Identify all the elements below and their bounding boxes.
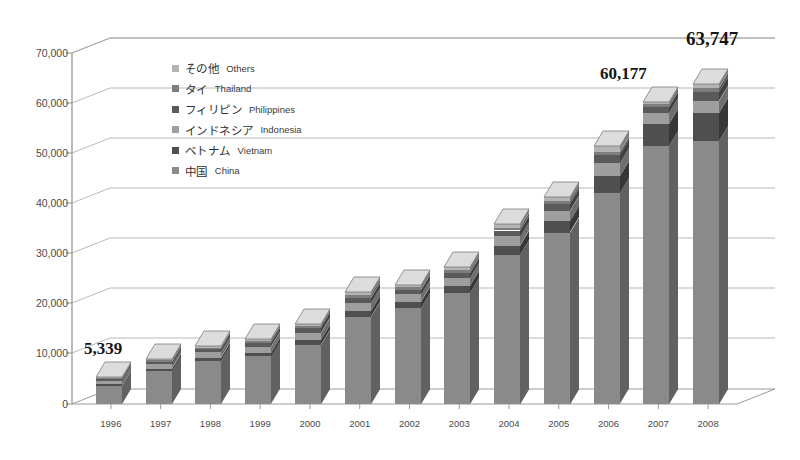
- bar-top-cap: [96, 362, 133, 380]
- segment-side-face: [470, 278, 480, 405]
- bar-segment-2002-4: [395, 287, 421, 289]
- legend-label-en: Thailand: [215, 83, 251, 94]
- bar-segment-2005-1: [544, 221, 570, 232]
- segment-front-face: [444, 286, 470, 293]
- bar-segment-2001-1: [345, 311, 371, 317]
- bar-2007: [643, 0, 669, 460]
- x-tick-label-2007: 2007: [635, 418, 681, 429]
- segment-side-face: [620, 178, 630, 405]
- bar-top-cap: [544, 182, 581, 200]
- bar-segment-1997-2: [146, 364, 172, 369]
- bar-segment-2000-3: [295, 328, 321, 333]
- x-tick-label-2005: 2005: [536, 418, 582, 429]
- bar-segment-2002-0: [395, 308, 421, 404]
- segment-front-face: [295, 340, 321, 345]
- bar-segment-2003-0: [444, 293, 470, 404]
- legend-label-en: Indonesia: [260, 124, 301, 135]
- bar-segment-2001-4: [345, 295, 371, 298]
- legend-swatch-icon: [172, 65, 179, 72]
- bar-segment-2003-4: [444, 270, 470, 273]
- bar-top-cap: [693, 69, 730, 87]
- bar-segment-2000-0: [295, 345, 321, 404]
- segment-front-face: [146, 362, 172, 365]
- bar-segment-1997-0: [146, 371, 172, 404]
- segment-front-face: [594, 163, 620, 176]
- legend: その他 Others タイ Thailand フィリピン Philippines…: [172, 58, 362, 181]
- bar-top-cap: [395, 270, 432, 288]
- segment-front-face: [295, 328, 321, 333]
- segment-front-face: [693, 88, 719, 92]
- bar-top-cap: [245, 324, 282, 342]
- legend-label-en: China: [215, 165, 240, 176]
- bar-segment-2008-0: [693, 141, 719, 404]
- legend-item-others: その他 Others: [172, 58, 362, 79]
- legend-label-jp: インドネシア: [185, 122, 253, 138]
- segment-front-face: [594, 152, 620, 156]
- segment-front-face: [544, 221, 570, 232]
- bar-segment-1996-2: [96, 381, 122, 385]
- segment-front-face: [146, 369, 172, 371]
- legend-item-vietnam: ベトナム Vietnam: [172, 140, 362, 161]
- segment-front-face: [693, 113, 719, 141]
- segment-side-face: [570, 218, 580, 405]
- x-tick-label-2003: 2003: [436, 418, 482, 429]
- segment-front-face: [693, 101, 719, 113]
- bar-2005: [544, 0, 570, 460]
- x-tick-label-2001: 2001: [337, 418, 383, 429]
- x-tick-label-1998: 1998: [187, 418, 233, 429]
- bar-segment-2002-3: [395, 290, 421, 295]
- segment-front-face: [245, 356, 271, 404]
- value-label-1996: 5,339: [84, 339, 122, 359]
- bar-segment-1999-0: [245, 356, 271, 404]
- segment-front-face: [345, 303, 371, 312]
- legend-label-en: Vietnam: [238, 145, 273, 156]
- bar-segment-2006-3: [594, 155, 620, 163]
- bar-segment-2007-2: [643, 113, 669, 124]
- segment-front-face: [395, 294, 421, 302]
- bar-segment-2006-4: [594, 152, 620, 156]
- legend-item-philippines: フィリピン Philippines: [172, 99, 362, 120]
- bar-top-cap: [494, 209, 531, 227]
- segment-side-face: [669, 131, 679, 405]
- segment-front-face: [544, 204, 570, 211]
- bar-segment-2008-2: [693, 101, 719, 113]
- segment-side-face: [520, 240, 530, 405]
- x-tick-label-2006: 2006: [586, 418, 632, 429]
- segment-front-face: [245, 353, 271, 357]
- legend-label-jp: タイ: [185, 81, 208, 97]
- bar-segment-1999-1: [245, 353, 271, 357]
- legend-label-jp: その他: [185, 60, 219, 76]
- bar-segment-1996-0: [96, 386, 122, 404]
- segment-front-face: [444, 270, 470, 273]
- segment-front-face: [195, 349, 221, 352]
- bar-segment-2007-1: [643, 124, 669, 146]
- bar-segment-2004-0: [494, 255, 520, 404]
- x-tick-label-2000: 2000: [287, 418, 333, 429]
- bar-segment-2008-4: [693, 88, 719, 92]
- segment-front-face: [96, 386, 122, 404]
- segment-front-face: [494, 246, 520, 255]
- bar-top-cap: [295, 309, 332, 327]
- x-tick-label-2004: 2004: [486, 418, 532, 429]
- segment-front-face: [494, 231, 520, 237]
- legend-item-thailand: タイ Thailand: [172, 79, 362, 100]
- segment-front-face: [96, 381, 122, 385]
- bar-segment-1996-1: [96, 384, 122, 386]
- x-tick-label-2008: 2008: [685, 418, 731, 429]
- legend-swatch-icon: [172, 167, 179, 174]
- bar-1997: [146, 0, 172, 460]
- legend-label-en: Others: [226, 63, 255, 74]
- bar-segment-2000-1: [295, 340, 321, 345]
- segment-front-face: [295, 333, 321, 341]
- segment-front-face: [345, 295, 371, 298]
- bar-segment-2006-2: [594, 163, 620, 176]
- segment-front-face: [544, 233, 570, 404]
- legend-label-jp: 中国: [185, 163, 208, 179]
- bar-segment-1999-3: [245, 343, 271, 347]
- bar-1996: [96, 0, 122, 460]
- segment-front-face: [544, 211, 570, 222]
- bar-segment-2004-1: [494, 246, 520, 255]
- bar-segment-1997-3: [146, 362, 172, 365]
- segment-front-face: [643, 124, 669, 146]
- segment-front-face: [643, 107, 669, 113]
